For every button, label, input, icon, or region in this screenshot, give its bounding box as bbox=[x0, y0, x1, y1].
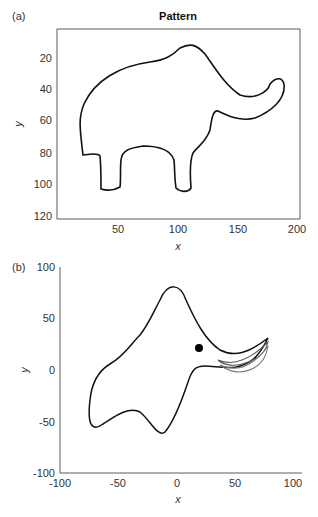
panel-a-title: Pattern bbox=[159, 10, 197, 22]
panel-a-xlabel: x bbox=[174, 240, 181, 252]
panel-b-ylabel: y bbox=[18, 366, 30, 374]
svg-text:200: 200 bbox=[288, 223, 306, 235]
svg-text:40: 40 bbox=[40, 83, 52, 95]
figure: (a) Pattern 20 40 60 80 100 120 50 100 1… bbox=[0, 0, 318, 517]
elephant-outline bbox=[80, 45, 284, 191]
trunk-variant-2 bbox=[218, 342, 268, 365]
panel-b-yticks: -100 -50 0 50 100 bbox=[33, 261, 55, 479]
panel-a: (a) Pattern 20 40 60 80 100 120 50 100 1… bbox=[12, 10, 306, 252]
svg-text:50: 50 bbox=[229, 477, 241, 489]
svg-text:100: 100 bbox=[37, 261, 55, 273]
svg-text:100: 100 bbox=[284, 477, 302, 489]
panel-a-label: (a) bbox=[12, 10, 25, 22]
svg-text:80: 80 bbox=[40, 147, 52, 159]
panel-a-yticks: 20 40 60 80 100 120 bbox=[34, 52, 52, 222]
panel-b-label: (b) bbox=[12, 261, 25, 273]
svg-text:50: 50 bbox=[43, 312, 55, 324]
panel-a-ylabel: y bbox=[12, 120, 24, 128]
panel-a-xticks: 50 100 150 200 bbox=[112, 223, 306, 235]
panel-b: (b) -100 -50 0 50 100 -100 -50 0 50 100 … bbox=[12, 261, 302, 505]
center-dot bbox=[195, 344, 203, 352]
svg-text:100: 100 bbox=[34, 178, 52, 190]
svg-text:0: 0 bbox=[49, 364, 55, 376]
svg-text:120: 120 bbox=[34, 210, 52, 222]
svg-text:100: 100 bbox=[169, 223, 187, 235]
panel-b-xticks: -100 -50 0 50 100 bbox=[49, 477, 302, 489]
svg-text:20: 20 bbox=[40, 52, 52, 64]
svg-text:-50: -50 bbox=[39, 416, 55, 428]
svg-text:50: 50 bbox=[112, 223, 124, 235]
panel-b-xlabel: x bbox=[174, 493, 181, 505]
svg-text:-50: -50 bbox=[110, 477, 126, 489]
svg-text:-100: -100 bbox=[49, 477, 71, 489]
svg-text:0: 0 bbox=[174, 477, 180, 489]
svg-text:150: 150 bbox=[229, 223, 247, 235]
svg-text:60: 60 bbox=[40, 114, 52, 126]
